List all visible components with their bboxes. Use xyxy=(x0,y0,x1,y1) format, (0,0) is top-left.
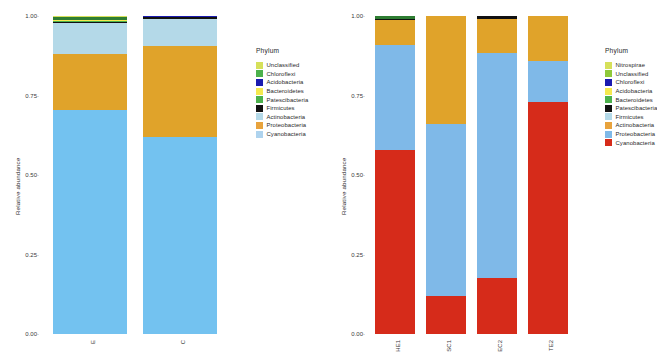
y-tick-right-2: 0.75· xyxy=(331,93,365,99)
legend-swatch-icon xyxy=(605,70,612,77)
legend-item-firmicutes[interactable]: Firmicutes xyxy=(256,104,308,113)
legend-swatch-icon xyxy=(605,131,612,138)
bar-slot xyxy=(45,16,135,334)
legend-item-acidobacteria[interactable]: Acidobacteria xyxy=(605,87,657,96)
legend-items-right: NitrospiraeUnclassifiedChloroflexiAcidob… xyxy=(605,61,657,147)
bar-segment-cyanobacteria[interactable] xyxy=(426,296,466,334)
legend-swatch-icon xyxy=(256,62,263,69)
bar-segment-proteobacteria[interactable] xyxy=(477,53,517,279)
bar-segment-proteobacteria[interactable] xyxy=(426,124,466,296)
legend-item-unclassified[interactable]: Unclassified xyxy=(256,61,308,70)
legend-swatch-icon xyxy=(256,79,263,86)
x-tick-label-HE1: HE1 xyxy=(395,340,401,352)
bar-segment-proteobacteria[interactable] xyxy=(143,46,217,137)
legend-swatch-icon xyxy=(605,96,612,103)
plot-area-left xyxy=(45,16,225,334)
legend-swatch-icon xyxy=(605,62,612,69)
legend-label: Cyanobacteria xyxy=(267,131,306,137)
legend-label: Nitrospirae xyxy=(616,62,646,68)
bar-segment-cyanobacteria[interactable] xyxy=(477,278,517,334)
bar-segment-actinobacteria[interactable] xyxy=(528,16,568,61)
legend-item-actinobacteria[interactable]: Actinobacteria xyxy=(605,121,657,130)
legend-swatch-icon xyxy=(256,70,263,77)
x-tick-label-E: E xyxy=(90,340,96,344)
legend-swatch-icon xyxy=(256,122,263,129)
bar-slot xyxy=(472,16,523,334)
stacked-bar[interactable] xyxy=(477,16,517,334)
x-axis-right: HE1 SC1 EC2 TE2 xyxy=(369,336,574,360)
legend-label: Proteobacteria xyxy=(616,131,656,137)
legend-item-bacteroidetes[interactable]: Bacteroidetes xyxy=(256,87,308,96)
legend-swatch-icon xyxy=(605,105,612,112)
legend-label: Actinobacteria xyxy=(267,114,306,120)
legend-item-patescibacteria[interactable]: Patescibacteria xyxy=(605,104,657,113)
legend-label: Firmicutes xyxy=(616,114,644,120)
bar-segment-proteobacteria[interactable] xyxy=(375,45,415,150)
legend-item-cyanobacteria[interactable]: Cyanobacteria xyxy=(256,130,308,139)
y-tick-right-5: 0.00· xyxy=(331,331,365,337)
legend-right: Phylum NitrospiraeUnclassifiedChloroflex… xyxy=(605,47,657,147)
y-tick-left-3: 0.50· xyxy=(5,172,39,178)
legend-item-nitrospirae[interactable]: Nitrospirae xyxy=(605,61,657,70)
bar-segment-actinobacteria[interactable] xyxy=(143,19,217,46)
legend-label: Bacteroidetes xyxy=(267,88,304,94)
bar-segment-proteobacteria[interactable] xyxy=(528,61,568,102)
bar-segment-cyanobacteria[interactable] xyxy=(143,137,217,334)
y-tick-left-5: 0.00· xyxy=(5,331,39,337)
y-tick-left-4: 0.25· xyxy=(5,252,39,258)
legend-title-left: Phylum xyxy=(256,47,308,54)
legend-swatch-icon xyxy=(256,96,263,103)
legend-swatch-icon xyxy=(605,88,612,95)
y-axis-title-left: Relative abundance xyxy=(14,158,21,215)
x-tick-label-C: C xyxy=(180,340,186,344)
bar-slot xyxy=(369,16,420,334)
bar-slot xyxy=(420,16,471,334)
y-tick-right-4: 0.25· xyxy=(331,252,365,258)
legend-swatch-icon xyxy=(256,88,263,95)
bar-slot xyxy=(135,16,225,334)
legend-items-left: UnclassifiedChloroflexiAcidobacteriaBact… xyxy=(256,61,308,138)
legend-item-firmicutes[interactable]: Firmicutes xyxy=(605,113,657,122)
legend-item-patescibacteria[interactable]: Patescibacteria xyxy=(256,95,308,104)
legend-label: Chloroflexi xyxy=(616,79,645,85)
x-axis-left: E C xyxy=(45,336,225,360)
legend-item-chloroflexi[interactable]: Chloroflexi xyxy=(256,70,308,79)
bar-segment-cyanobacteria[interactable] xyxy=(53,110,127,334)
y-tick-left-1: 1.00· xyxy=(5,13,39,19)
y-tick-right-1: 1.00· xyxy=(331,13,365,19)
legend-label: Chloroflexi xyxy=(267,71,296,77)
stacked-bar[interactable] xyxy=(426,16,466,334)
legend-item-chloroflexi[interactable]: Chloroflexi xyxy=(605,78,657,87)
bar-segment-cyanobacteria[interactable] xyxy=(375,150,415,334)
bar-segment-actinobacteria[interactable] xyxy=(375,20,415,45)
legend-title-right: Phylum xyxy=(605,47,657,54)
legend-item-acidobacteria[interactable]: Acidobacteria xyxy=(256,78,308,87)
x-tick-slot: E xyxy=(45,336,135,360)
x-tick-label-EC2: EC2 xyxy=(497,340,503,352)
bar-segment-cyanobacteria[interactable] xyxy=(528,102,568,334)
legend-item-unclassified[interactable]: Unclassified xyxy=(605,70,657,79)
stacked-bar[interactable] xyxy=(53,16,127,334)
x-tick-slot: SC1 xyxy=(420,336,471,360)
legend-item-actinobacteria[interactable]: Actinobacteria xyxy=(256,113,308,122)
legend-label: Bacteroidetes xyxy=(616,97,653,103)
legend-item-cyanobacteria[interactable]: Cyanobacteria xyxy=(605,138,657,147)
stacked-bar[interactable] xyxy=(143,16,217,334)
stacked-bars-right xyxy=(369,16,574,334)
legend-label: Unclassified xyxy=(267,62,300,68)
legend-item-bacteroidetes[interactable]: Bacteroidetes xyxy=(605,95,657,104)
stacked-bar[interactable] xyxy=(375,16,415,334)
legend-label: Firmicutes xyxy=(267,105,295,111)
bar-segment-actinobacteria[interactable] xyxy=(477,19,517,52)
stacked-bars-left xyxy=(45,16,225,334)
legend-label: Patescibacteria xyxy=(616,105,657,111)
legend-label: Actinobacteria xyxy=(616,122,655,128)
bar-segment-actinobacteria[interactable] xyxy=(53,23,127,55)
stacked-bar[interactable] xyxy=(528,16,568,334)
bar-segment-proteobacteria[interactable] xyxy=(53,54,127,109)
legend-item-proteobacteria[interactable]: Proteobacteria xyxy=(605,130,657,139)
x-tick-slot: EC2 xyxy=(472,336,523,360)
legend-item-proteobacteria[interactable]: Proteobacteria xyxy=(256,121,308,130)
bar-segment-actinobacteria[interactable] xyxy=(426,16,466,124)
